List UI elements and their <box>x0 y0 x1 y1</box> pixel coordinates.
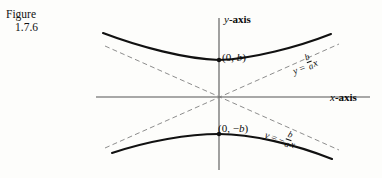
x-axis-label: x-axis <box>330 91 357 103</box>
y-axis-label: y-axis <box>224 13 251 25</box>
vertex-bottom-open: (0, − <box>218 122 239 134</box>
hyperbola-lower-branch <box>112 134 332 159</box>
vertex-top-label: (0, b) <box>222 51 246 63</box>
hyperbola-plot <box>0 0 382 178</box>
figure-panel: Figure 1.7.6 y-axis x-axis (0, b) (0, − <box>0 0 382 178</box>
vertex-top-marker <box>217 58 221 62</box>
x-axis-suffix: -axis <box>335 91 357 103</box>
vertex-bottom-label: (0, −b) <box>218 122 248 134</box>
vertex-top-open: (0, <box>222 51 237 63</box>
vertex-top-close: ) <box>242 51 246 63</box>
vertex-bottom-close: ) <box>244 122 248 134</box>
y-axis-suffix: -axis <box>229 13 251 25</box>
